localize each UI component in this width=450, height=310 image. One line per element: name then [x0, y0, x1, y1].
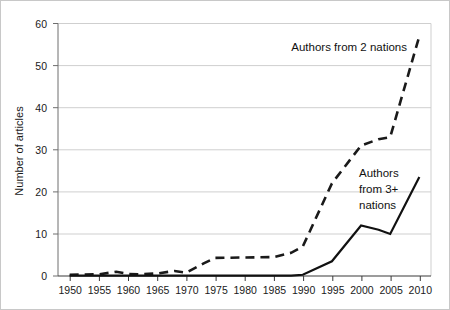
x-tick-label-1985: 1985	[263, 284, 287, 296]
x-tick-label-1950: 1950	[59, 284, 83, 296]
series-line-authors-2-nations	[70, 36, 420, 275]
x-axis-ticks	[70, 276, 420, 281]
line-chart: 60 50 40 30 20 10 0 1950 1955 1960 1965 …	[1, 1, 450, 310]
annotation-authors-2-nations: Authors from 2 nations	[291, 41, 407, 53]
y-tick-label-50: 50	[35, 60, 47, 72]
x-tick-label-1960: 1960	[117, 284, 141, 296]
y-axis-ticks	[53, 24, 58, 277]
x-tick-label-2005: 2005	[379, 284, 403, 296]
y-tick-label-30: 30	[35, 144, 47, 156]
x-tick-label-1975: 1975	[204, 284, 228, 296]
y-axis-title: Number of articles	[13, 106, 25, 196]
annotation-authors-3plus-nations: Authors from 3+ nations	[359, 167, 399, 211]
annotation-line-2: from 3+	[359, 183, 399, 195]
y-tick-label-10: 10	[35, 228, 47, 240]
y-tick-label-60: 60	[35, 18, 47, 30]
x-tick-label-1995: 1995	[321, 284, 345, 296]
x-tick-label-1970: 1970	[175, 284, 199, 296]
x-tick-label-1965: 1965	[146, 284, 170, 296]
y-tick-label-0: 0	[41, 270, 47, 282]
annotation-line-1: Authors	[359, 167, 399, 179]
annotation-line-3: nations	[359, 199, 396, 211]
y-tick-label-20: 20	[35, 186, 47, 198]
x-tick-label-1955: 1955	[88, 284, 112, 296]
x-tick-label-2000: 2000	[350, 284, 374, 296]
chart-container: 60 50 40 30 20 10 0 1950 1955 1960 1965 …	[0, 0, 450, 310]
x-tick-label-1990: 1990	[292, 284, 316, 296]
x-tick-label-2010: 2010	[409, 284, 433, 296]
y-tick-label-40: 40	[35, 102, 47, 114]
x-tick-label-1980: 1980	[234, 284, 258, 296]
